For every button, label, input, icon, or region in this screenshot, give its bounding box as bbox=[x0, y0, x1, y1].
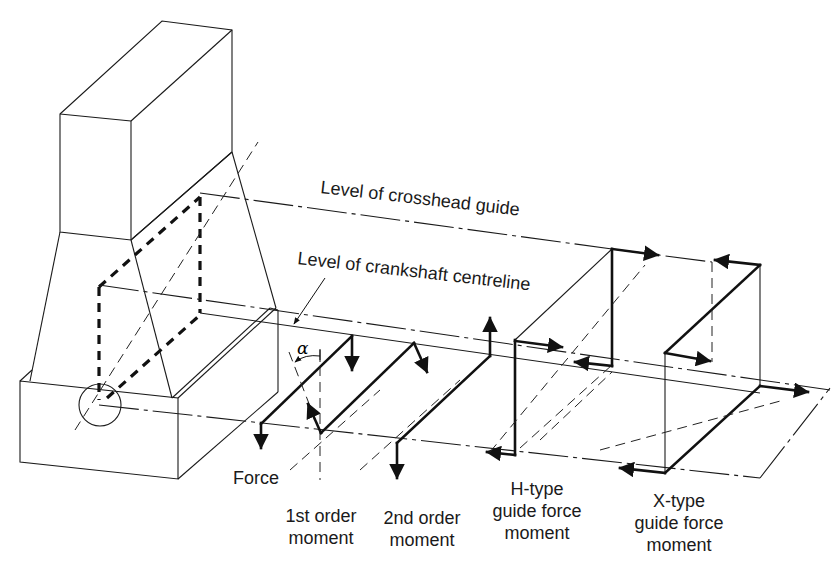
force-moment-group bbox=[261, 318, 490, 480]
label-second-order-line1: 2nd order bbox=[376, 507, 468, 529]
label-h-type-line3: moment bbox=[482, 522, 592, 544]
x-type-moment-group bbox=[600, 260, 808, 473]
label-h-type-line1: H-type bbox=[482, 478, 592, 500]
label-second-order-line2: moment bbox=[376, 529, 468, 551]
label-force: Force bbox=[233, 467, 279, 489]
engine-column-block bbox=[60, 21, 232, 240]
engine-bedplate bbox=[20, 308, 278, 479]
label-x-type-line1: X-type bbox=[624, 490, 734, 512]
label-first-order-line2: moment bbox=[275, 527, 367, 549]
engine-force-moment-diagram: Level of crosshead guide Level of cranks… bbox=[0, 0, 831, 578]
label-alpha: α bbox=[297, 338, 308, 358]
label-x-type-line2: guide force bbox=[624, 512, 734, 534]
label-h-type-moment: H-type guide force moment bbox=[482, 478, 592, 544]
label-second-order-moment: 2nd order moment bbox=[376, 507, 468, 551]
level-lines bbox=[99, 193, 830, 478]
label-first-order-moment: 1st order moment bbox=[275, 505, 367, 549]
engine-frame-housing bbox=[30, 152, 276, 398]
label-x-type-line3: moment bbox=[624, 534, 734, 556]
label-h-type-line2: guide force bbox=[482, 500, 592, 522]
label-x-type-moment: X-type guide force moment bbox=[624, 490, 734, 556]
label-first-order-line1: 1st order bbox=[275, 505, 367, 527]
hidden-edges bbox=[99, 197, 200, 400]
